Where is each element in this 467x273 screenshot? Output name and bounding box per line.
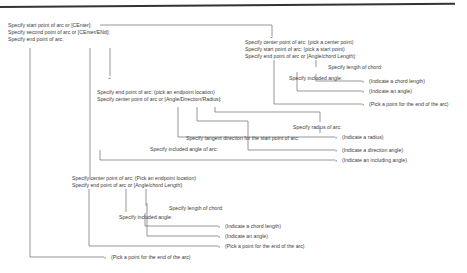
prompt-chord-length: Specify length of chord: bbox=[328, 64, 382, 70]
result-radius: (Indicate a radius) bbox=[342, 134, 384, 140]
prompt-end-point: Specify end point of arc: bbox=[8, 36, 64, 42]
prompt-end-angle-chord: Specify end point of arc or [Angle/chord… bbox=[72, 182, 183, 188]
result-angle: (Indicate an angle) bbox=[369, 88, 412, 94]
connector bbox=[100, 25, 272, 36]
arrow-right-icon: › bbox=[218, 243, 220, 249]
prompt-end-point-location: Specify end point of arc: (pick an endpo… bbox=[97, 89, 215, 95]
result-chord-length: (Indicate a chord length) bbox=[369, 78, 425, 84]
arrow-right-icon: › bbox=[335, 157, 337, 163]
prompt-chord-length-2: Specify length of chord: bbox=[169, 205, 223, 211]
prompt-tangent-direction: Specify tangent direction for the start … bbox=[186, 135, 299, 141]
prompt-included-angle-2: Specify included angle: bbox=[119, 214, 172, 220]
arrow-right-icon: › bbox=[335, 134, 337, 140]
arrow-right-icon: › bbox=[362, 88, 364, 94]
arrow-right-icon: › bbox=[362, 78, 364, 84]
result-end-point: (Pick a point for the end of the arc) bbox=[369, 101, 449, 107]
result-end-point-2: (Pick a point for the end of the arc) bbox=[225, 243, 305, 249]
arrow-right-icon: › bbox=[218, 233, 220, 239]
prompt-radius: Specify radius of arc: bbox=[293, 124, 341, 130]
prompt-center-point: Specify center point of arc: (pick a cen… bbox=[245, 39, 353, 45]
result-including-angle: (Indicate an including angle) bbox=[342, 157, 407, 163]
arrow-right-icon: › bbox=[218, 223, 220, 229]
prompt-start-point: Specify start point of arc or [CEnter]: bbox=[8, 22, 92, 28]
result-angle-2: (Indicate an angle) bbox=[225, 233, 268, 239]
prompt-end-point-angle: Specify end point of arc or [Angle/chord… bbox=[245, 53, 356, 59]
prompt-included-angle: Specify included angle: bbox=[289, 75, 342, 81]
arrow-right-icon: › bbox=[335, 147, 337, 153]
prompt-included-angle-arc: Specify included angle of arc: bbox=[150, 146, 218, 152]
prompt-center-angle-direction-radius: Specify center point of arc or [Angle/Di… bbox=[97, 96, 222, 102]
arrow-right-icon: › bbox=[104, 254, 106, 260]
prompt-center-endpoint: Specify center point of arc: (Pick an en… bbox=[72, 175, 196, 181]
result-final-end-point: (Pick a point for the end of the arc) bbox=[111, 254, 191, 260]
prompt-second-point: Specify second point of arc or [CEnter/E… bbox=[8, 29, 110, 35]
arrow-down-icon: ⌄ bbox=[107, 74, 112, 80]
arrow-right-icon: › bbox=[362, 101, 364, 107]
prompt-start-point-2: Specify start point of arc: (pick a star… bbox=[245, 46, 345, 52]
result-chord-length-2: (Indicate a chord length) bbox=[225, 223, 281, 229]
result-direction-angle: (Indicate a direction angle) bbox=[342, 147, 403, 153]
